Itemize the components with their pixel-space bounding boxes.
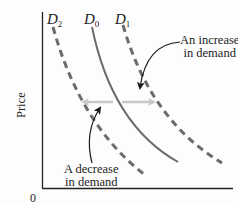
increase-annotation-line2: in demand: [180, 47, 238, 60]
origin-label: 0: [30, 192, 36, 204]
label-d1-letter: D: [115, 11, 126, 27]
label-d0-sub: 0: [95, 19, 100, 29]
label-d2-sub: 2: [58, 19, 63, 29]
decrease-annotation-line2: in demand: [64, 176, 118, 189]
label-d0: D0: [84, 12, 99, 29]
chart-canvas: [0, 0, 238, 204]
label-d1: D1: [115, 12, 130, 29]
demand-shift-diagram: D2 D0 D1 An increase in demand A decreas…: [0, 0, 238, 204]
label-d2: D2: [47, 12, 62, 29]
label-d1-sub: 1: [126, 19, 131, 29]
y-axis-label: Price: [15, 92, 28, 118]
label-d0-letter: D: [84, 11, 95, 27]
label-d2-letter: D: [47, 11, 58, 27]
curve-d0: [92, 27, 178, 162]
decrease-annotation: A decrease in demand: [64, 163, 118, 189]
increase-annotation: An increase in demand: [180, 34, 238, 60]
